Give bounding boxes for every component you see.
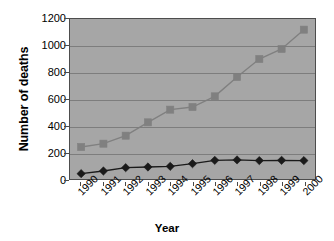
y-tick-mark — [64, 99, 69, 100]
data-point-square — [256, 55, 263, 62]
gridline — [70, 127, 315, 128]
data-point-diamond — [211, 156, 219, 164]
data-point-diamond — [144, 163, 152, 171]
data-point-diamond — [277, 156, 285, 164]
data-point-square — [167, 106, 174, 113]
data-point-diamond — [188, 160, 196, 168]
chart-container: Number of deaths 020040060080010001200 1… — [0, 0, 334, 241]
y-tick-mark — [64, 126, 69, 127]
data-point-diamond — [122, 164, 130, 172]
y-tick-label: 400 — [30, 121, 66, 131]
data-point-diamond — [77, 170, 85, 178]
y-tick-mark — [64, 18, 69, 19]
y-tick-label: 200 — [30, 148, 66, 158]
data-point-diamond — [166, 162, 174, 170]
series-layer — [70, 19, 315, 179]
y-tick-mark — [64, 153, 69, 154]
data-point-square — [78, 143, 85, 150]
data-point-diamond — [99, 167, 107, 175]
y-tick-mark — [64, 45, 69, 46]
data-point-square — [189, 103, 196, 110]
gridline — [70, 73, 315, 74]
y-tick-mark — [64, 180, 69, 181]
data-point-square — [122, 132, 129, 139]
data-point-square — [100, 140, 107, 147]
x-axis-tick-labels: 1990199119921993199419951996199719981999… — [0, 182, 334, 226]
y-tick-label: 1200 — [30, 13, 66, 23]
data-point-diamond — [255, 156, 263, 164]
y-tick-label: 1000 — [30, 40, 66, 50]
y-axis-title: Number of deaths — [17, 19, 31, 179]
data-point-diamond — [233, 156, 241, 164]
series-line — [81, 30, 304, 147]
data-point-square — [233, 73, 240, 80]
data-point-square — [144, 119, 151, 126]
y-axis-tick-labels: 020040060080010001200 — [30, 10, 66, 190]
plot-area — [69, 18, 316, 180]
y-tick-mark — [64, 72, 69, 73]
data-point-diamond — [300, 156, 308, 164]
y-tick-label: 800 — [30, 67, 66, 77]
gridline — [70, 154, 315, 155]
gridline — [70, 100, 315, 101]
y-tick-label: 600 — [30, 94, 66, 104]
data-point-square — [300, 26, 307, 33]
x-axis-title: Year — [0, 222, 334, 234]
data-point-square — [211, 93, 218, 100]
gridline — [70, 46, 315, 47]
